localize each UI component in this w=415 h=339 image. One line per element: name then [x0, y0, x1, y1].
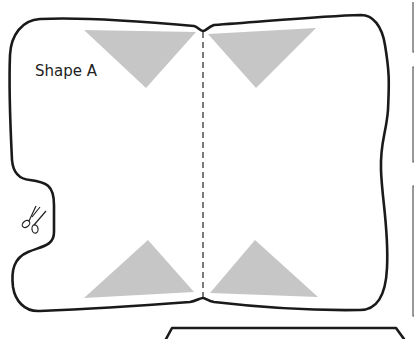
shape-a-outline	[10, 15, 389, 311]
adjacent-box-bottom	[413, 186, 414, 316]
triangle-bottom-right	[210, 240, 318, 297]
shape-label: Shape A	[35, 62, 98, 80]
adjacent-box-middle	[413, 67, 414, 162]
adjacent-shape-bottom	[166, 328, 404, 339]
scissors-icon	[21, 206, 46, 234]
triangle-top-right	[208, 28, 316, 88]
triangle-top-left	[84, 30, 196, 88]
adjacent-box-top	[413, 2, 414, 52]
triangle-bottom-left	[84, 240, 194, 298]
cutout-template-sheet: Shape A	[0, 0, 415, 339]
